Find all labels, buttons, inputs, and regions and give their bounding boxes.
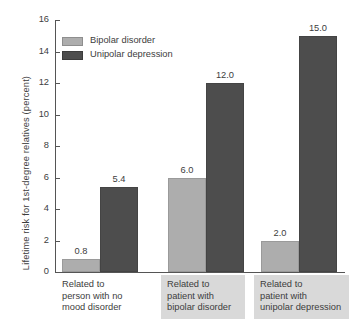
legend-swatch-icon-unipolar xyxy=(62,51,83,60)
bar xyxy=(168,178,206,273)
chart-legend: Bipolar disorder Unipolar depression xyxy=(62,35,173,63)
legend-swatch-icon-bipolar xyxy=(62,37,83,46)
y-tick-label: 10 xyxy=(19,110,49,119)
category-label-line: person with no xyxy=(62,291,130,303)
bar xyxy=(206,83,244,272)
legend-label: Bipolar disorder xyxy=(90,36,155,45)
y-tick-label: 8 xyxy=(19,141,49,150)
x-axis-line xyxy=(55,272,345,273)
legend-label: Unipolar depression xyxy=(90,50,173,59)
y-tick-mark xyxy=(56,146,60,147)
y-tick-label: 16 xyxy=(19,15,49,24)
bar xyxy=(62,259,100,272)
bar xyxy=(261,241,299,273)
bar xyxy=(100,187,138,272)
y-tick-label: 6 xyxy=(19,173,49,182)
bar-value-label: 12.0 xyxy=(200,71,250,80)
category-label-1: Related toperson with nomood disorder xyxy=(56,275,136,319)
y-tick-mark xyxy=(56,115,60,116)
bar-value-label: 0.8 xyxy=(56,247,106,256)
y-tick-label: 12 xyxy=(19,78,49,87)
y-tick-label: 2 xyxy=(19,236,49,245)
category-label-3: Related topatient withunipolar depressio… xyxy=(254,275,349,319)
category-label-line: Related to xyxy=(62,279,130,291)
bar xyxy=(299,36,337,272)
y-tick-label: 0 xyxy=(19,267,49,276)
category-label-line: patient with xyxy=(167,291,239,303)
category-label-line: bipolar disorder xyxy=(167,302,239,314)
y-tick-mark xyxy=(56,83,60,84)
y-tick-mark xyxy=(56,20,60,21)
y-tick-mark xyxy=(56,178,60,179)
legend-item-bipolar-disorder: Bipolar disorder xyxy=(62,35,173,47)
y-tick-label: 4 xyxy=(19,204,49,213)
bar-value-label: 5.4 xyxy=(94,175,144,184)
category-label-2: Related topatient withbipolar disorder xyxy=(161,275,245,319)
bar-value-label: 2.0 xyxy=(255,229,305,238)
y-tick-mark xyxy=(56,272,60,273)
category-label-line: patient with xyxy=(260,291,343,303)
y-tick-mark xyxy=(56,52,60,53)
bar-chart: Lifetime risk for 1st-degree relatives (… xyxy=(0,0,349,326)
legend-item-unipolar-depression: Unipolar depression xyxy=(62,49,173,61)
y-tick-mark xyxy=(56,241,60,242)
category-label-line: unipolar depression xyxy=(260,302,343,314)
category-label-line: mood disorder xyxy=(62,302,130,314)
bar-value-label: 15.0 xyxy=(293,24,343,33)
bar-value-label: 6.0 xyxy=(162,166,212,175)
category-label-line: Related to xyxy=(167,279,239,291)
category-label-line: Related to xyxy=(260,279,343,291)
y-tick-mark xyxy=(56,209,60,210)
y-tick-label: 14 xyxy=(19,47,49,56)
